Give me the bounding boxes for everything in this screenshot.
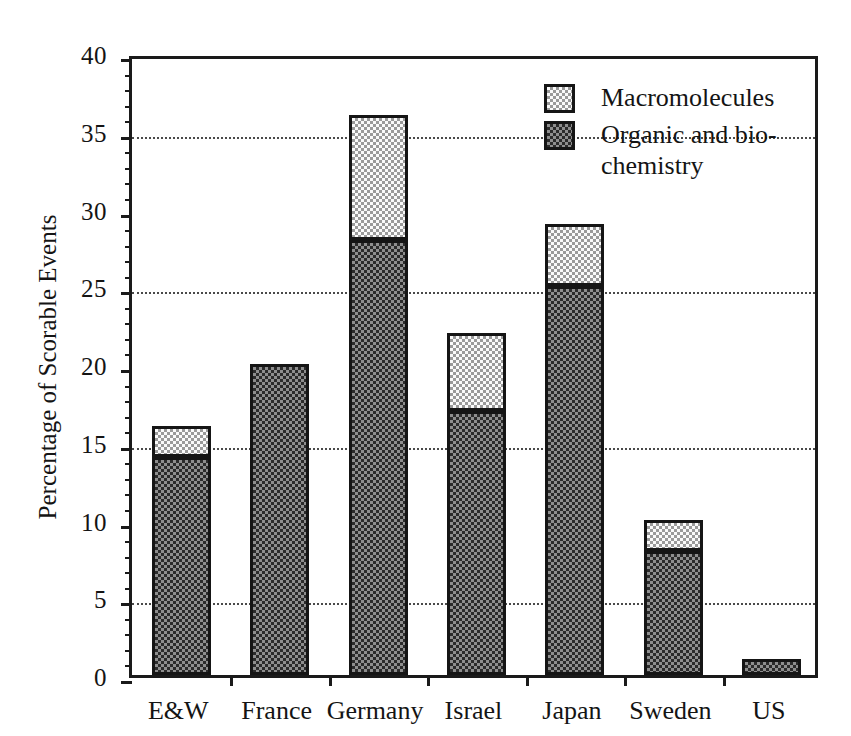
x-tick-label-e-w: E&W bbox=[129, 696, 227, 726]
legend-label-macromolecules: Macromolecules bbox=[601, 82, 774, 113]
x-tick-4 bbox=[526, 675, 529, 686]
bar-segment-organic-biochemistry bbox=[250, 364, 309, 675]
legend-swatch-organic-biochemistry-icon bbox=[544, 121, 575, 150]
y-tick-minor-6 bbox=[125, 588, 132, 590]
y-tick-minor-13 bbox=[125, 479, 132, 481]
y-tick-minor-39 bbox=[125, 75, 132, 77]
legend-label-line-1: Organic and bio- bbox=[601, 120, 777, 149]
y-tick-label-30: 30 bbox=[0, 199, 107, 224]
bar-segment-macromolecules bbox=[349, 115, 408, 239]
legend-item-macromolecules: Macromolecules bbox=[544, 82, 834, 113]
bar-segment-macromolecules bbox=[644, 520, 703, 551]
y-tick-minor-14 bbox=[125, 463, 132, 465]
bar-segment-macromolecules bbox=[447, 333, 506, 411]
y-tick-minor-16 bbox=[125, 432, 132, 434]
y-tick-minor-24 bbox=[125, 308, 132, 310]
bar-segment-macromolecules bbox=[545, 224, 604, 286]
chart-legend: Macromolecules Organic and bio- chemistr… bbox=[544, 82, 834, 187]
y-tick-label-20: 20 bbox=[0, 354, 107, 379]
bar-segment-organic-biochemistry bbox=[349, 240, 408, 675]
bar-group-israel bbox=[447, 53, 506, 675]
legend-label-line-1: Macromolecules bbox=[601, 83, 774, 112]
x-tick-2 bbox=[329, 675, 332, 686]
legend-label-organic-biochemistry: Organic and bio- chemistry bbox=[601, 119, 777, 181]
y-tick-minor-32 bbox=[125, 183, 132, 185]
y-tick-minor-38 bbox=[125, 90, 132, 92]
y-tick-minor-31 bbox=[125, 199, 132, 201]
legend-swatch-macromolecules-icon bbox=[544, 84, 575, 113]
y-tick-major-25 bbox=[121, 292, 132, 295]
x-tick-label-us: US bbox=[720, 696, 818, 726]
y-tick-major-10 bbox=[121, 526, 132, 529]
bar-segment-macromolecules bbox=[152, 426, 211, 457]
bar-group-germany bbox=[349, 53, 408, 675]
legend-label-line-2: chemistry bbox=[601, 151, 704, 180]
y-tick-minor-34 bbox=[125, 152, 132, 154]
y-tick-minor-36 bbox=[125, 121, 132, 123]
x-tick-label-france: France bbox=[227, 696, 325, 726]
y-tick-minor-8 bbox=[125, 557, 132, 559]
y-tick-major-5 bbox=[121, 603, 132, 606]
x-tick-label-israel: Israel bbox=[424, 696, 522, 726]
y-tick-label-15: 15 bbox=[0, 432, 107, 457]
y-tick-minor-3 bbox=[125, 634, 132, 636]
y-tick-minor-33 bbox=[125, 168, 132, 170]
y-tick-major-40 bbox=[121, 59, 132, 62]
x-tick-label-japan: Japan bbox=[523, 696, 621, 726]
chart-figure: Percentage of Scorable Events 4035302520… bbox=[0, 0, 851, 736]
x-tick-label-sweden: Sweden bbox=[621, 696, 719, 726]
bar-segment-organic-biochemistry bbox=[447, 411, 506, 675]
y-tick-minor-19 bbox=[125, 386, 132, 388]
y-tick-minor-28 bbox=[125, 246, 132, 248]
y-tick-major-35 bbox=[121, 137, 132, 140]
y-tick-minor-27 bbox=[125, 261, 132, 263]
bar-segment-organic-biochemistry bbox=[644, 551, 703, 675]
y-tick-minor-18 bbox=[125, 401, 132, 403]
y-tick-minor-2 bbox=[125, 650, 132, 652]
bar-segment-organic-biochemistry bbox=[152, 457, 211, 675]
y-tick-major-20 bbox=[121, 370, 132, 373]
bar-group-france bbox=[250, 53, 309, 675]
y-tick-minor-21 bbox=[125, 354, 132, 356]
y-tick-minor-17 bbox=[125, 417, 132, 419]
y-tick-label-5: 5 bbox=[0, 587, 107, 612]
y-tick-label-10: 10 bbox=[0, 510, 107, 535]
y-tick-minor-4 bbox=[125, 619, 132, 621]
y-tick-minor-26 bbox=[125, 277, 132, 279]
bar-group-e-w bbox=[152, 53, 211, 675]
y-tick-label-40: 40 bbox=[0, 43, 107, 68]
y-tick-minor-12 bbox=[125, 494, 132, 496]
y-tick-minor-23 bbox=[125, 323, 132, 325]
y-tick-minor-1 bbox=[125, 665, 132, 667]
y-tick-minor-7 bbox=[125, 572, 132, 574]
y-tick-major-15 bbox=[121, 448, 132, 451]
y-tick-minor-22 bbox=[125, 339, 132, 341]
x-tick-5 bbox=[624, 675, 627, 686]
x-tick-6 bbox=[723, 675, 726, 686]
y-tick-minor-9 bbox=[125, 541, 132, 543]
y-tick-minor-37 bbox=[125, 106, 132, 108]
legend-item-organic-biochemistry: Organic and bio- chemistry bbox=[544, 119, 834, 181]
y-tick-minor-29 bbox=[125, 230, 132, 232]
y-tick-major-0 bbox=[121, 681, 132, 684]
x-tick-3 bbox=[427, 675, 430, 686]
x-tick-1 bbox=[230, 675, 233, 686]
bar-segment-organic-biochemistry bbox=[545, 286, 604, 675]
x-tick-label-germany: Germany bbox=[326, 696, 424, 726]
y-tick-label-35: 35 bbox=[0, 121, 107, 146]
y-tick-minor-11 bbox=[125, 510, 132, 512]
y-tick-label-0: 0 bbox=[0, 665, 107, 690]
y-tick-label-25: 25 bbox=[0, 276, 107, 301]
bar-segment-organic-biochemistry bbox=[742, 659, 801, 675]
y-tick-major-30 bbox=[121, 215, 132, 218]
